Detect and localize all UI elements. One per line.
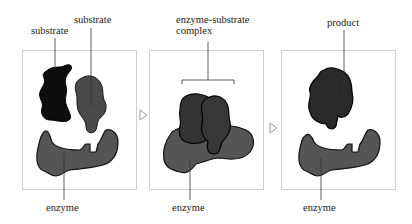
label-substrate-left: substrate <box>31 25 68 36</box>
label-substrate-right: substrate <box>74 14 111 25</box>
label-complex-line2: complex <box>176 25 212 36</box>
product-shape <box>309 68 353 129</box>
label-product: product <box>327 17 359 28</box>
label-enzyme-1: enzyme <box>46 202 79 213</box>
enzyme-shape <box>37 130 118 176</box>
label-enzyme-3: enzyme <box>303 202 336 213</box>
substrate-black-shape <box>40 65 72 122</box>
label-enzyme-2: enzyme <box>172 202 205 213</box>
complex-bracket <box>182 42 234 84</box>
label-complex-line1: enzyme-substrate <box>176 14 249 25</box>
enzyme-shape <box>299 130 380 176</box>
